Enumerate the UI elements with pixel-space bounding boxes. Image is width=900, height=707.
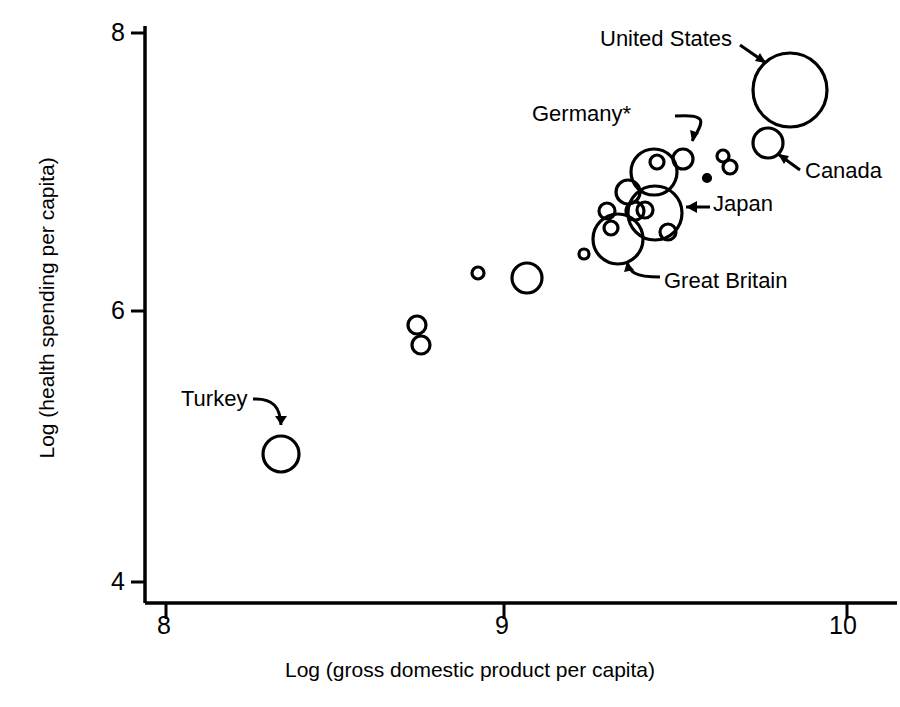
bubble-point-5 xyxy=(579,249,589,259)
point-label-japan: Japan xyxy=(713,193,773,215)
arrowhead-japan xyxy=(686,201,697,213)
x-axis-title: Log (gross domestic product per capita) xyxy=(285,659,655,680)
axis-lines xyxy=(145,26,897,603)
x-tick-label-8: 8 xyxy=(157,613,171,638)
bubble-chart-figure: Log (gross domestic product per capita) … xyxy=(0,0,900,707)
bubble-point-3 xyxy=(472,267,484,279)
arrowhead-turkey xyxy=(275,416,287,425)
bubble-point-4 xyxy=(512,263,542,293)
axis-ticks xyxy=(131,33,847,619)
x-tick-label-10: 10 xyxy=(829,613,857,638)
bubble-point-16 xyxy=(723,160,737,174)
point-label-canada: Canada xyxy=(805,160,882,182)
y-tick-label-4: 4 xyxy=(111,569,125,594)
bubble-point-7 xyxy=(604,221,618,235)
point-label-great-britain: Great Britain xyxy=(664,270,788,292)
x-tick-label-9: 9 xyxy=(495,613,509,638)
bubble-point-1 xyxy=(408,316,426,334)
bubble-point-13 xyxy=(673,149,693,169)
bubble-point-11 xyxy=(650,155,664,169)
point-label-turkey: Turkey xyxy=(181,388,247,410)
annotation-arrows xyxy=(253,45,800,425)
plot-canvas xyxy=(0,0,900,707)
point-label-germany: Germany* xyxy=(532,103,631,125)
y-tick-label-8: 8 xyxy=(111,20,125,45)
bubble-united-states xyxy=(753,53,827,127)
bubble-turkey xyxy=(263,436,299,472)
arrow-turkey xyxy=(253,399,281,425)
y-tick-label-6: 6 xyxy=(111,298,125,323)
bubble-point-14 xyxy=(704,175,711,182)
point-label-united-states: United States xyxy=(600,28,732,50)
bubble-point-2 xyxy=(412,336,430,354)
y-axis-title: Log (health spending per capita) xyxy=(36,159,57,459)
arrow-germany xyxy=(675,116,701,141)
